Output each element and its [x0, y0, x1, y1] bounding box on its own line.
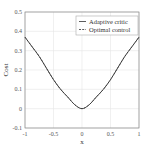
cost-chart: -1-0.500.51 -0.100.10.20.30.40.5 x Cost … [0, 0, 147, 146]
y-tick-label: 0.5 [15, 9, 23, 15]
x-tick-label: -0.5 [49, 131, 59, 137]
y-tick-label: 0.2 [15, 67, 23, 73]
y-tick-label: 0.3 [15, 48, 23, 54]
legend-label-optimal-control: Optimal control [89, 26, 131, 33]
legend-label-adaptive-critic: Adaptive critic [89, 18, 128, 25]
y-axis-label: Cost [2, 64, 10, 77]
legend: Adaptive critic Optimal control [76, 16, 138, 35]
x-tick-label: 0 [81, 131, 84, 137]
x-axis-label: x [80, 138, 84, 146]
y-tick-label: 0.4 [15, 28, 23, 34]
y-tick-label: 0 [19, 106, 22, 112]
x-tick-label: 1 [138, 131, 141, 137]
y-tick-labels: -0.100.10.20.30.40.5 [13, 9, 23, 131]
x-tick-label: 0.5 [107, 131, 115, 137]
y-tick-label: -0.1 [13, 125, 23, 131]
x-tick-labels: -1-0.500.51 [23, 131, 141, 137]
x-tick-label: -1 [23, 131, 28, 137]
y-tick-label: 0.1 [15, 86, 23, 92]
